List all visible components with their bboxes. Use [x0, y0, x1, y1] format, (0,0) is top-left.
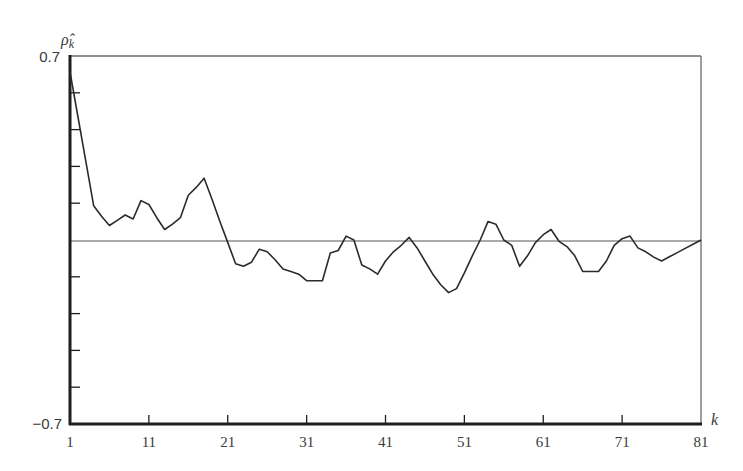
x-axis-ticks: 11121314151617181: [66, 415, 708, 450]
x-tick-label: 61: [536, 434, 551, 450]
plot-frame: [70, 56, 701, 424]
y-axis-title-subscript: k: [69, 37, 75, 51]
x-tick-label: 71: [615, 434, 630, 450]
x-tick-label: 81: [694, 434, 709, 450]
x-tick-label: 1: [66, 434, 74, 450]
x-tick-label: 31: [299, 434, 314, 450]
x-tick-label: 21: [220, 434, 235, 450]
x-axis: 11121314151617181 k: [66, 411, 719, 450]
y-axis-title: ρ̂k: [60, 31, 75, 51]
x-tick-label: 51: [457, 434, 472, 450]
x-tick-label: 11: [142, 434, 156, 450]
y-tick-label-bottom: −0.7: [32, 415, 62, 432]
y-tick-label-top: 0.7: [39, 48, 60, 65]
acf-series-line: [70, 72, 701, 293]
acf-chart: 0.7 −0.7 ρ̂k 11121314151617181 k: [0, 0, 743, 471]
x-axis-title: k: [711, 411, 719, 428]
x-tick-label: 41: [378, 434, 393, 450]
